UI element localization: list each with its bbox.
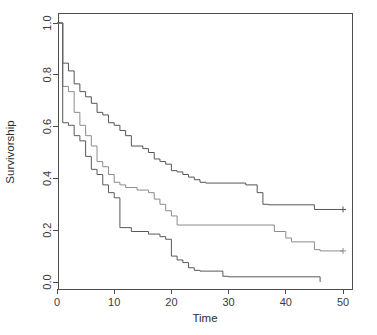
x-tick-label-40: 40 [280, 296, 292, 308]
plot-box [58, 13, 352, 289]
censoring-marks [340, 206, 346, 253]
x-tick-label-50: 50 [337, 296, 349, 308]
y-tick-label-0.4: 0.4 [41, 171, 53, 186]
survival-plot-svg: 01020304050 0.00.20.40.60.81.0 Time Surv… [0, 0, 377, 335]
y-axis-title: Survivorship [4, 120, 16, 183]
y-axis: 0.00.20.40.60.81.0 [41, 15, 58, 289]
y-tick-label-0.2: 0.2 [41, 223, 53, 238]
y-tick-label-1.0: 1.0 [41, 15, 53, 30]
x-tick-label-20: 20 [165, 296, 177, 308]
x-axis-title: Time [192, 312, 217, 324]
curve-middle-curve [57, 23, 343, 251]
censor-mark-upper-curve-0 [340, 206, 346, 212]
curve-upper-curve [57, 23, 343, 209]
x-axis: 01020304050 [54, 289, 349, 308]
x-tick-label-0: 0 [54, 296, 60, 308]
y-tick-label-0.0: 0.0 [41, 274, 53, 289]
y-tick-label-0.6: 0.6 [41, 119, 53, 134]
x-tick-label-30: 30 [222, 296, 234, 308]
survival-curves [57, 23, 343, 282]
plot-box-border [58, 13, 352, 289]
censor-mark-middle-curve-0 [340, 248, 346, 254]
y-tick-label-0.8: 0.8 [41, 67, 53, 82]
curve-lower-curve [57, 23, 320, 282]
survival-plot-figure: 01020304050 0.00.20.40.60.81.0 Time Surv… [0, 0, 377, 335]
x-tick-label-10: 10 [108, 296, 120, 308]
